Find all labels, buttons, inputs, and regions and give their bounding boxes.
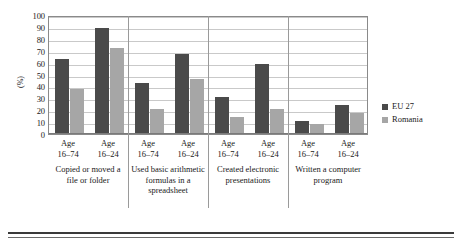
x-category-label: Created electronic presentations	[211, 164, 285, 185]
legend-label: Romania	[392, 113, 423, 126]
y-axis-title: (%)	[16, 76, 25, 88]
y-tick-label: 60	[37, 59, 45, 68]
legend-label: EU 27	[392, 100, 414, 113]
x-category-label: Copied or moved a file or folder	[51, 164, 125, 185]
y-axis: (%) 1009080706050403020100	[18, 16, 47, 135]
footer-rule-secondary	[8, 237, 454, 238]
x-age-label: Age16–24	[325, 138, 371, 159]
legend-swatch-icon	[382, 117, 388, 123]
chart-page: (%) 1009080706050403020100 Age16–74Age16…	[0, 0, 462, 243]
legend-item[interactable]: EU 27	[382, 100, 423, 113]
footer-rule	[8, 232, 454, 234]
y-tick-label: 30	[37, 95, 45, 104]
x-category-label: Used basic arithmetic formulas in a spre…	[131, 164, 205, 196]
y-tick-label: 70	[37, 47, 45, 56]
legend: EU 27Romania	[382, 100, 423, 126]
y-tick-label: 100	[33, 12, 45, 21]
y-tick-label: 90	[37, 24, 45, 33]
x-category-label: Written a computer program	[291, 164, 365, 185]
y-tick-label: 40	[37, 83, 45, 92]
legend-item[interactable]: Romania	[382, 113, 423, 126]
y-tick-label: 50	[37, 71, 45, 80]
y-tick-label: 10	[37, 119, 45, 128]
x-axis-labels: Age16–74Age16–24Age16–74Age16–24Age16–74…	[48, 136, 368, 208]
y-tick-label: 20	[37, 107, 45, 116]
legend-swatch-icon	[382, 104, 388, 110]
y-tick-label: 80	[37, 36, 45, 45]
